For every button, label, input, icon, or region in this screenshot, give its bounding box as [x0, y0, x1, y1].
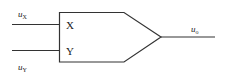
multiplier-block — [60, 13, 162, 63]
multiplier-diagram: X Y uX uY uo — [0, 0, 228, 77]
port-label-y: Y — [66, 45, 74, 57]
input-label-ux: uX — [18, 9, 28, 20]
input-label-uy: uY — [18, 62, 28, 73]
output-label-uo: uo — [191, 24, 199, 35]
port-label-x: X — [66, 19, 74, 31]
